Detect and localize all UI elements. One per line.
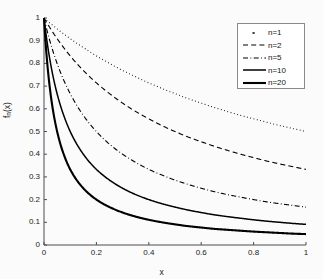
- y-tick-label: 0.8: [18, 58, 40, 67]
- legend-line-sample: [241, 27, 267, 39]
- y-tick-label: 0.5: [18, 127, 40, 136]
- legend-label: n=10: [268, 66, 286, 75]
- figure-canvas: 00.10.20.30.40.50.60.70.80.91 00.20.40.6…: [0, 0, 323, 279]
- y-tick-label: 0.6: [18, 104, 40, 113]
- x-tick-label: 0.2: [83, 248, 109, 257]
- x-tick-label: 0.8: [241, 248, 267, 257]
- legend-line-sample: [241, 77, 267, 89]
- legend-label: n=20: [268, 78, 286, 87]
- x-tick-label: 1: [293, 248, 319, 257]
- legend-item-n5[interactable]: n=5: [238, 51, 304, 64]
- legend-item-n20[interactable]: n=20: [238, 76, 304, 89]
- legend-item-n10[interactable]: n=10: [238, 64, 304, 77]
- y-axis-label: fn(x): [2, 102, 12, 118]
- legend-label: n=2: [268, 41, 282, 50]
- legend: n=1n=2n=5n=10n=20: [237, 23, 305, 89]
- y-tick-label: 0.1: [18, 217, 40, 226]
- x-tick-label: 0.4: [136, 248, 162, 257]
- legend-line-sample: [241, 64, 267, 76]
- y-tick-label: 0.9: [18, 36, 40, 45]
- legend-label: n=5: [268, 53, 282, 62]
- y-tick-label: 0.3: [18, 172, 40, 181]
- legend-item-n2[interactable]: n=2: [238, 39, 304, 52]
- x-tick-label: 0: [31, 248, 57, 257]
- y-tick-label: 1: [18, 13, 40, 22]
- legend-line-sample: [241, 52, 267, 64]
- legend-line-sample: [241, 39, 267, 51]
- x-tick-label: 0.6: [188, 248, 214, 257]
- legend-item-n1[interactable]: n=1: [238, 26, 304, 39]
- y-tick-label: 0.4: [18, 149, 40, 158]
- y-tick-label: 0.2: [18, 195, 40, 204]
- y-tick-label: 0.7: [18, 81, 40, 90]
- x-axis-label: x: [0, 267, 323, 277]
- legend-label: n=1: [268, 28, 282, 37]
